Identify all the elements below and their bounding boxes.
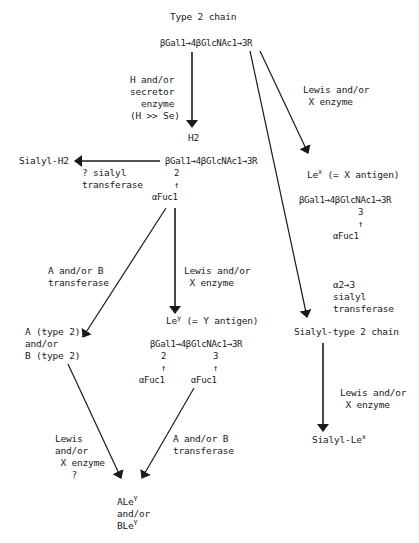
bley-superscript: Y bbox=[134, 519, 138, 527]
enzyme-label-line: enzyme bbox=[130, 98, 174, 110]
node-label-line: A (type 2) bbox=[25, 326, 80, 338]
lex-structure: βGal1→4βGlcNAc1→3R bbox=[299, 194, 391, 206]
lex-arrow: ↑ bbox=[358, 218, 363, 230]
bley-text: BLe bbox=[117, 520, 134, 531]
lex-suffix: (= X antigen) bbox=[322, 169, 399, 180]
enzyme-label-line: transferase bbox=[82, 179, 143, 191]
ley-label: Ley (= Y antigen) bbox=[166, 315, 258, 327]
ley-linkage-2: 2 bbox=[161, 350, 166, 362]
bley-label: BLeY bbox=[117, 520, 138, 532]
enzyme-label-line: (H >> Se) bbox=[130, 110, 180, 122]
sialyl-h2-label: Sialyl-H2 bbox=[19, 155, 69, 167]
enzyme-label-line: Lewis and/or bbox=[303, 84, 369, 96]
ley-suffix: (= Y antigen) bbox=[181, 315, 258, 326]
diagram-title: Type 2 chain bbox=[170, 11, 236, 23]
h2-structure: βGal1→4βGlcNAc1→3R bbox=[165, 155, 257, 167]
sialyl-lex: Sialyl-Lex bbox=[312, 434, 366, 446]
enzyme-label-line: A and/or B bbox=[48, 265, 103, 277]
ley-fucose-left: αFuc1 bbox=[139, 374, 165, 386]
lex-fucose: αFuc1 bbox=[333, 230, 359, 242]
enzyme-label-line: and/or bbox=[55, 445, 88, 457]
enzyme-label-line: transferase bbox=[173, 445, 234, 457]
aley-label: ALeY bbox=[117, 496, 138, 508]
enzyme-label-line: X enzyme bbox=[184, 277, 234, 289]
arrow-root-to-lex bbox=[260, 51, 308, 153]
enzyme-label-line: ? sialyl bbox=[82, 167, 126, 179]
enzyme-label-line: A and/or B bbox=[173, 433, 228, 445]
enzyme-label-line: α2→3 bbox=[333, 279, 355, 291]
enzyme-label-line: sialyl bbox=[333, 291, 366, 303]
enzyme-label-line: X enzyme bbox=[55, 457, 105, 469]
enzyme-label-line: transferase bbox=[333, 303, 394, 315]
sialyl-lex-text: Sialyl-Le bbox=[312, 434, 362, 445]
lex-text: Le bbox=[307, 169, 318, 180]
node-label-line: and/or bbox=[25, 338, 58, 350]
h2-fucose: αFuc1 bbox=[152, 191, 178, 203]
ley-linkage-3: 3 bbox=[213, 350, 218, 362]
enzyme-label-line: Lewis and/or bbox=[340, 387, 406, 399]
ley-structure: βGal1→4βGlcNAc1→3R bbox=[150, 338, 242, 350]
node-label-line: B (type 2) bbox=[25, 350, 80, 362]
enzyme-label-line: X enzyme bbox=[303, 96, 353, 108]
enzyme-label-line: secretor bbox=[130, 86, 174, 98]
ley-arrow-left: ↑ bbox=[161, 362, 166, 374]
aley-text: ALe bbox=[117, 496, 134, 507]
lex-label: Lex (= X antigen) bbox=[307, 169, 399, 181]
ley-fucose-right: αFuc1 bbox=[191, 374, 217, 386]
ley-text: Le bbox=[166, 315, 177, 326]
enzyme-label-line: transferase bbox=[48, 277, 109, 289]
enzyme-label-line: ? bbox=[55, 469, 77, 481]
h2-arrow: ↑ bbox=[174, 179, 179, 191]
h2-label: H2 bbox=[188, 132, 199, 144]
root-structure: βGal1→4βGlcNAc1→3R bbox=[160, 37, 252, 49]
enzyme-label-line: Lewis bbox=[55, 433, 83, 445]
enzyme-label-line: X enzyme bbox=[340, 399, 390, 411]
sialyl-type2-chain: Sialyl-type 2 chain bbox=[294, 326, 399, 338]
ley-arrow-right: ↑ bbox=[213, 362, 218, 374]
sialyl-lex-superscript: x bbox=[362, 433, 366, 441]
enzyme-label-line: H and/or bbox=[130, 74, 174, 86]
aley-superscript: Y bbox=[134, 495, 138, 503]
h2-linkage: 2 bbox=[174, 167, 179, 179]
lex-linkage: 3 bbox=[358, 206, 363, 218]
enzyme-label-line: Lewis and/or bbox=[184, 265, 250, 277]
